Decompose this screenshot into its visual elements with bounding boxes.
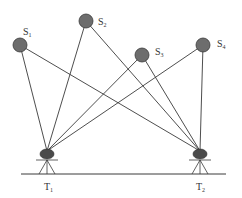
sight-line-t1-s1 [20,45,47,151]
tripod-leg-icon [192,160,200,174]
sight-line-t2-s2 [86,21,200,151]
source-label-s3: S3 [155,46,164,58]
instrument-icon [40,149,54,159]
source-label-s1: S1 [23,26,32,38]
station-label-t1: T1 [44,181,53,193]
tripod-leg-icon [200,160,208,174]
station-label-t2: T2 [196,181,205,193]
sight-line-t2-s3 [142,55,200,151]
stations: T1T2 [36,149,211,193]
source-s1: S1 [13,26,32,52]
source-s4: S4 [196,38,226,52]
sight-line-t1-s4 [47,45,203,151]
sight-line-t2-s1 [20,45,200,151]
source-s3: S3 [135,46,164,62]
source-circle-icon [196,38,210,52]
source-label-s2: S2 [98,16,107,28]
sight-line-t2-s4 [200,45,203,151]
tripod-leg-icon [47,160,55,174]
tripod-leg-icon [39,160,47,174]
station-t1: T1 [36,149,58,193]
source-circle-icon [135,48,149,62]
observation-diagram: T1T2 S1S2S3S4 [0,0,242,198]
source-label-s4: S4 [217,38,226,50]
source-circle-icon [13,38,27,52]
sight-lines [20,21,203,151]
station-t2: T2 [189,149,211,193]
sources: S1S2S3S4 [13,14,226,62]
source-s2: S2 [79,14,107,28]
source-circle-icon [79,14,93,28]
instrument-icon [193,149,207,159]
